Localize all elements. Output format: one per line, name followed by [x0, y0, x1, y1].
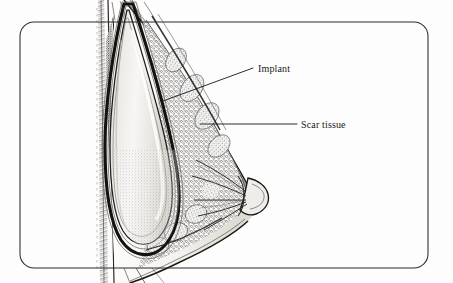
scar-tissue-label: Scar tissue: [301, 119, 346, 130]
figure-container: Implant Scar tissue: [0, 0, 453, 283]
implant-label: Implant: [258, 63, 290, 74]
breast-implant-illustration: Implant Scar tissue: [0, 0, 453, 283]
